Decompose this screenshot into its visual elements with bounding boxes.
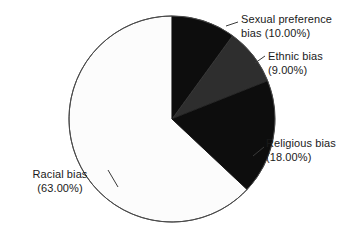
- leader-line-sexual-preference-bias: [226, 22, 238, 26]
- pie-label-racial-bias-line1: Racial bias: [14, 168, 106, 182]
- pie-label-sexual-preference-bias-line1: Sexual preference: [241, 13, 332, 27]
- pie-label-ethnic-bias: Ethnic bias (9.00%): [268, 50, 323, 77]
- pie-label-racial-bias: Racial bias (63.00%): [14, 168, 106, 195]
- pie-label-religious-bias: Religious bias (18.00%): [266, 137, 336, 164]
- pie-chart-figure: Sexual preference bias (10.00%) Ethnic b…: [0, 0, 364, 240]
- pie-label-ethnic-bias-line2: (9.00%): [268, 64, 323, 78]
- pie-label-sexual-preference-bias-line2: bias (10.00%): [241, 27, 332, 41]
- pie-label-sexual-preference-bias: Sexual preference bias (10.00%): [241, 13, 332, 40]
- pie-label-racial-bias-line2: (63.00%): [14, 182, 106, 196]
- pie-label-religious-bias-line1: Religious bias: [266, 137, 336, 151]
- pie-label-ethnic-bias-line1: Ethnic bias: [268, 50, 323, 64]
- pie-label-religious-bias-line2: (18.00%): [266, 151, 336, 165]
